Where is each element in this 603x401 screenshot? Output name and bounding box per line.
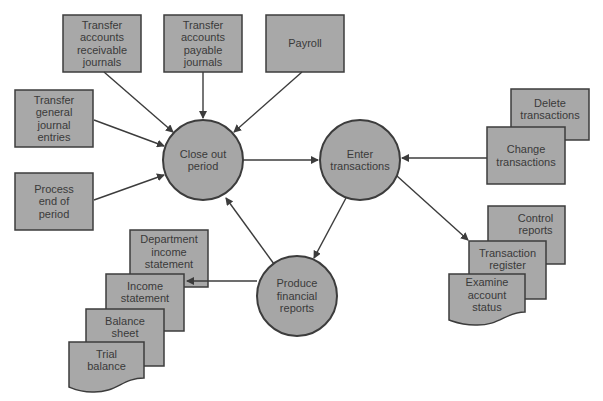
ap-label: Transfer accounts payable journals xyxy=(164,15,242,72)
change-label: Change transactions xyxy=(487,127,565,184)
control-label: Control reports xyxy=(506,206,565,242)
trial-label: Trial balance xyxy=(69,342,144,378)
eop-label: Process end of period xyxy=(15,173,93,230)
register-label: Transaction register xyxy=(469,241,546,277)
income-label: Income statement xyxy=(106,274,184,310)
examine-label: Examine account status xyxy=(449,274,525,316)
enter-label: Enter transactions xyxy=(320,120,400,200)
payroll-label: Payroll xyxy=(266,15,344,72)
gj-label: Transfer general journal entries xyxy=(15,90,93,147)
dept-label: Department income statement xyxy=(130,230,208,274)
delete-label: Delete transactions xyxy=(511,89,589,129)
ar-label: Transfer accounts receivable journals xyxy=(63,15,141,72)
close-out-label: Close out period xyxy=(163,120,243,200)
balance-label: Balance sheet xyxy=(86,309,164,345)
produce-label: Produce financial reports xyxy=(257,256,337,336)
